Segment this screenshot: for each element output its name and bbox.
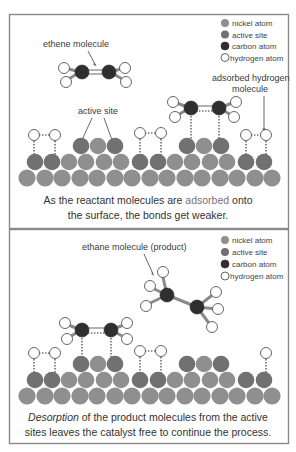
hydrogen-atom — [141, 301, 152, 312]
hydrogen-atom — [168, 97, 179, 108]
carbon-atom — [102, 65, 116, 79]
nickel-atom-icon — [221, 19, 229, 27]
hydrogen-atom — [60, 318, 71, 329]
legend-label: active site — [232, 31, 268, 40]
legend-label: carbon atom — [232, 42, 277, 51]
hydrogen-atom — [59, 63, 70, 74]
carbon-atom — [75, 65, 89, 79]
carbon-atom-icon — [221, 42, 229, 50]
hydrogen-atom — [241, 130, 252, 141]
hydrogen-atom — [122, 334, 133, 345]
hydrogen-atom — [261, 130, 272, 141]
hydrogen-atom — [29, 348, 40, 359]
carbon-atom — [184, 101, 198, 115]
carbon-atom — [212, 101, 226, 115]
legend-label: nickel atom — [232, 19, 273, 28]
top-caption-line1: As the reactant molecules are adsorbed o… — [44, 194, 253, 206]
hydrogen-atom — [50, 348, 61, 359]
hydrogen-atom — [229, 112, 240, 123]
ethene-label: ethene molecule — [43, 39, 109, 49]
carbon-atom-icon — [221, 260, 229, 268]
hydrogen-atom — [29, 130, 40, 141]
hydrogen-atom — [61, 77, 72, 88]
carbon-atom — [190, 300, 204, 314]
carbon-atom — [75, 323, 89, 337]
hydrogen-atom-icon — [221, 272, 229, 280]
legend-label: hydrogen atom — [230, 272, 284, 281]
active-site-label: active site — [78, 106, 118, 116]
hydrogen-atom — [156, 128, 167, 139]
hydrogen-atom — [261, 348, 272, 359]
nickel-atom-icon — [221, 236, 229, 244]
hydrogen-atom — [135, 346, 146, 357]
hydrogen-atom — [122, 318, 133, 329]
hydrogen-atom — [120, 63, 131, 74]
hydrogen-atom — [207, 322, 218, 333]
caption-text: onto — [229, 194, 253, 206]
bottom-caption-line1: Desorption of the product molecules from… — [28, 411, 268, 423]
hydrogen-atom — [170, 112, 181, 123]
hydrogen-atom-icon — [221, 54, 229, 62]
desorption-word: Desorption — [28, 411, 79, 423]
hydrogen-atom — [145, 281, 156, 292]
hydrogen-atom — [211, 287, 222, 298]
carbon-atom — [160, 288, 174, 302]
bottom-panel: nickel atom active site carbon atom hydr… — [10, 230, 289, 444]
legend-label: carbon atom — [232, 260, 277, 269]
active-site-icon — [221, 31, 229, 39]
carbon-atom — [104, 323, 118, 337]
adsorbed-hydrogen-label: molecule — [232, 84, 268, 94]
hydrogen-atom — [135, 128, 146, 139]
legend-label: hydrogen atom — [230, 54, 284, 63]
caption-text: As the reactant molecules are — [44, 194, 186, 206]
adsorbed-highlight: adsorbed — [185, 194, 229, 206]
legend-label: nickel atom — [232, 236, 273, 245]
hydrogen-atom — [62, 334, 73, 345]
catalysis-diagram: nickel atom active site carbon atom hydr… — [0, 0, 296, 452]
bottom-caption-line2: sites leaves the catalyst free to contin… — [25, 426, 271, 438]
active-site-icon — [221, 248, 229, 256]
adsorbed-hydrogen-label: adsorbed hydrogen — [212, 73, 290, 83]
top-caption-line2: the surface, the bonds get weaker. — [68, 209, 229, 221]
hydrogen-atom — [231, 97, 242, 108]
top-panel: nickel atom active site carbon atom hydr… — [10, 15, 290, 229]
hydrogen-atom — [121, 77, 132, 88]
hydrogen-atom — [156, 346, 167, 357]
hydrogen-atom — [213, 304, 224, 315]
caption-text: of the product molecules from the active — [79, 411, 268, 423]
legend-label: active site — [232, 248, 268, 257]
hydrogen-atom — [50, 130, 61, 141]
ethane-label: ethane molecule (product) — [82, 242, 187, 252]
hydrogen-atom — [158, 267, 169, 278]
